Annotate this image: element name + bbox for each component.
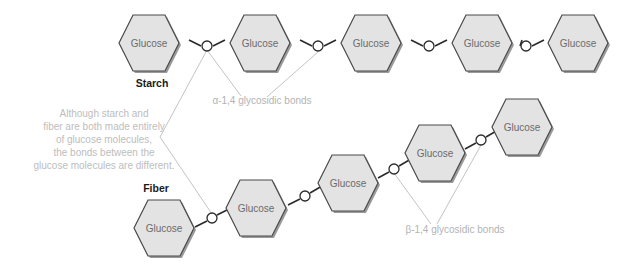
glucose-label: Glucose (353, 38, 390, 49)
glucose-unit: Glucose (226, 180, 288, 238)
caption-block: Although starch and fiber are both made … (33, 108, 174, 171)
caption-line: Although starch and (60, 108, 149, 119)
chain-label-starch: Starch (136, 77, 169, 89)
glucose-label: Glucose (242, 38, 279, 49)
leader-alpha-left (207, 50, 241, 96)
glucose-label: Glucose (238, 203, 275, 214)
glycosidic-bond-oxygen (202, 41, 212, 51)
glycosidic-bond-oxygen (476, 135, 486, 145)
caption-line: fiber are both made entirely (43, 121, 165, 132)
caption-line: glucose molecules are different. (33, 160, 174, 171)
caption-line: the bonds between the (53, 147, 155, 158)
glycosidic-bond-oxygen (389, 164, 399, 174)
glucose-unit: Glucose (492, 99, 554, 157)
glucose-label: Glucose (504, 122, 541, 133)
glucose-unit: Glucose (134, 200, 196, 258)
glycosidic-bond-oxygen (300, 191, 310, 201)
glucose-unit: Glucose (230, 15, 292, 73)
glycosidic-bond-oxygen (207, 213, 217, 223)
glucose-label: Glucose (464, 38, 501, 49)
glucose-unit: Glucose (119, 15, 181, 73)
glycosidic-bonds-diagram: Glucose Glucose Glucose Glucose Glucose (0, 0, 632, 270)
glucose-unit: Glucose (341, 15, 403, 73)
glucose-unit: Glucose (452, 15, 514, 73)
beta-bond-label: β-1,4 glycosidic bonds (405, 224, 504, 235)
chain-starch: Glucose Glucose Glucose Glucose Glucose (119, 15, 610, 89)
glycosidic-bond-oxygen (313, 41, 323, 51)
glucose-label: Glucose (560, 38, 597, 49)
glycosidic-bond-oxygen (424, 41, 434, 51)
caption-line: of glucose molecules, (56, 134, 152, 145)
chain-label-fiber: Fiber (143, 182, 169, 194)
glycosidic-bond-oxygen (521, 41, 531, 51)
glucose-label: Glucose (131, 38, 168, 49)
glucose-unit: Glucose (548, 15, 610, 73)
glucose-label: Glucose (330, 178, 367, 189)
glucose-label: Glucose (417, 148, 454, 159)
glucose-label: Glucose (146, 223, 183, 234)
glucose-unit: Glucose (405, 125, 467, 183)
alpha-bond-label: α-1,4 glycosidic bonds (212, 95, 311, 106)
glucose-unit: Glucose (318, 155, 380, 213)
